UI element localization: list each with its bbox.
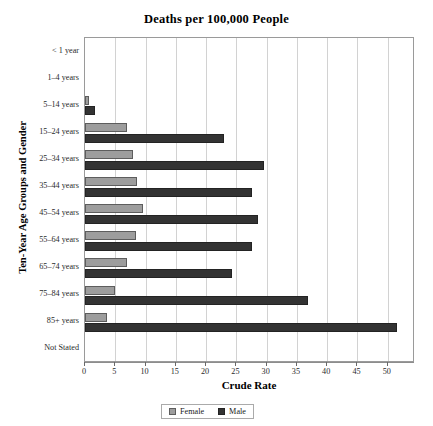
legend-swatch-male-icon <box>218 408 225 415</box>
bars-layer <box>85 38 413 361</box>
y-tick-label: 45–54 years <box>3 208 79 217</box>
legend: Female Male <box>161 404 254 419</box>
bar-male-5 <box>85 188 252 197</box>
x-axis-line <box>84 362 414 363</box>
legend-label-male: Male <box>229 407 246 416</box>
bar-male-6 <box>85 215 258 224</box>
x-tick <box>296 362 297 366</box>
legend-item-female: Female <box>169 407 204 416</box>
y-tick-label: 65–74 years <box>3 262 79 271</box>
x-tick-label: 30 <box>253 367 279 376</box>
chart-title: Deaths per 100,000 People <box>0 12 433 27</box>
y-tick-label: 15–24 years <box>3 127 79 136</box>
bar-male-7 <box>85 242 252 251</box>
legend-label-female: Female <box>180 407 204 416</box>
x-tick <box>175 362 176 366</box>
x-tick <box>145 362 146 366</box>
x-tick-label: 0 <box>71 367 97 376</box>
x-tick <box>205 362 206 366</box>
bar-female-5 <box>85 177 137 186</box>
x-tick <box>266 362 267 366</box>
bar-male-10 <box>85 323 397 332</box>
y-tick-label: 75–84 years <box>3 289 79 298</box>
bar-female-7 <box>85 231 136 240</box>
bar-female-9 <box>85 286 115 295</box>
x-tick-label: 25 <box>222 367 248 376</box>
x-tick <box>387 362 388 366</box>
x-tick <box>326 362 327 366</box>
x-tick-label: 40 <box>313 367 339 376</box>
chart-container: Deaths per 100,000 People Ten-Year Age G… <box>0 0 433 426</box>
y-tick-label: 1–4 years <box>3 73 79 82</box>
x-tick-label: 50 <box>374 367 400 376</box>
x-tick-label: 5 <box>101 367 127 376</box>
bar-female-2 <box>85 96 89 105</box>
legend-swatch-female-icon <box>169 408 176 415</box>
y-tick-label: 55–64 years <box>3 235 79 244</box>
bar-female-6 <box>85 204 143 213</box>
bar-male-8 <box>85 269 232 278</box>
y-axis-tick-labels: < 1 year1–4 years5–14 years15–24 years25… <box>0 37 79 362</box>
bar-male-3 <box>85 134 224 143</box>
x-tick <box>84 362 85 366</box>
x-axis-title: Crude Rate <box>84 379 414 391</box>
plot-area <box>84 37 414 362</box>
x-tick <box>114 362 115 366</box>
legend-item-male: Male <box>218 407 246 416</box>
y-tick-label: 5–14 years <box>3 100 79 109</box>
y-tick-label: 85+ years <box>3 316 79 325</box>
x-tick-label: 45 <box>343 367 369 376</box>
bar-female-8 <box>85 258 127 267</box>
bar-female-4 <box>85 150 133 159</box>
bar-male-9 <box>85 296 308 305</box>
y-tick-label: 25–34 years <box>3 154 79 163</box>
y-tick-label: < 1 year <box>3 46 79 55</box>
y-tick-label: 35–44 years <box>3 181 79 190</box>
bar-female-10 <box>85 313 107 322</box>
x-tick <box>356 362 357 366</box>
bar-female-3 <box>85 123 127 132</box>
bar-male-4 <box>85 161 264 170</box>
x-tick-label: 10 <box>132 367 158 376</box>
y-tick-label: Not Stated <box>3 343 79 352</box>
x-tick-label: 20 <box>192 367 218 376</box>
bar-male-2 <box>85 106 95 115</box>
x-tick-label: 35 <box>283 367 309 376</box>
x-tick <box>235 362 236 366</box>
x-tick-label: 15 <box>162 367 188 376</box>
